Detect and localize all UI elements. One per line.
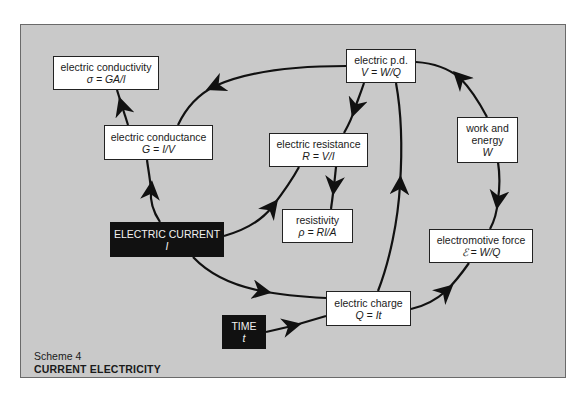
node-label-2: energy — [471, 134, 503, 146]
caption-title: CURRENT ELECTRICITY — [34, 363, 161, 376]
node-formula: R = V/I — [302, 150, 334, 162]
node-electromotive-force: electromotive force ℰ = W/Q — [429, 229, 533, 263]
node-label: electromotive force — [437, 234, 526, 246]
node-time: TIME t — [222, 315, 266, 349]
edge-work-emf — [498, 162, 500, 200]
node-formula: Q = It — [356, 309, 382, 321]
node-electric-current: ELECTRIC CURRENT I — [110, 222, 224, 257]
edge-work-pd — [460, 78, 487, 117]
node-work-and-energy: work and energy W — [457, 117, 518, 163]
edge-conductance-conductivity — [122, 106, 128, 125]
node-formula: V = W/Q — [361, 66, 401, 78]
node-label: work and — [466, 122, 509, 134]
node-label: resistivity — [296, 214, 339, 226]
node-formula: ℰ = W/Q — [462, 246, 501, 258]
edge-charge-emf — [411, 291, 446, 309]
edge-pd-resistance — [355, 83, 364, 108]
edge-current-charge — [193, 257, 262, 291]
node-label: electric charge — [334, 297, 402, 309]
node-electric-pd: electric p.d. V = W/Q — [346, 49, 416, 83]
caption-scheme: Scheme 4 — [34, 350, 161, 363]
edge-current-resistance — [224, 207, 272, 236]
node-label: electric p.d. — [354, 54, 408, 66]
node-formula: G = I/V — [142, 143, 175, 155]
edge-current-conductance — [151, 190, 160, 222]
node-label: electric conductance — [111, 131, 207, 143]
node-formula: ρ = Rl/A — [299, 226, 337, 238]
edge-resistance-resistivity — [334, 167, 336, 186]
node-formula: I — [166, 240, 169, 252]
edge-pd-conductance — [215, 66, 346, 86]
node-electric-conductance: electric conductance G = I/V — [104, 125, 213, 160]
node-label: TIME — [231, 320, 256, 332]
node-label: electric resistance — [276, 138, 360, 150]
node-electric-resistance: electric resistance R = V/I — [269, 133, 368, 167]
node-label: ELECTRIC CURRENT — [114, 228, 220, 240]
node-formula: σ = GA/l — [87, 73, 126, 85]
node-electric-charge: electric charge Q = It — [326, 291, 411, 326]
node-label: electric conductivity — [60, 61, 151, 73]
node-formula: t — [243, 332, 246, 344]
edge-time-charge — [266, 326, 292, 332]
node-electric-conductivity: electric conductivity σ = GA/l — [53, 56, 159, 90]
node-resistivity: resistivity ρ = Rl/A — [282, 209, 353, 243]
diagram-caption: Scheme 4 CURRENT ELECTRICITY — [34, 350, 161, 376]
edge-charge-pd — [378, 185, 400, 291]
node-formula: W — [483, 146, 493, 158]
